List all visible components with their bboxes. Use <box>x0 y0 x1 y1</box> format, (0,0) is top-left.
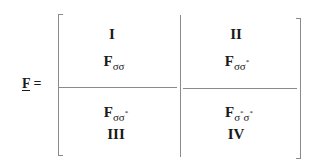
vertical-divider <box>180 15 181 157</box>
block-matrix-element: Fσ*σ* <box>213 104 265 123</box>
block-matrix-element: Fσσ* <box>215 53 259 72</box>
block-roman-label: IV <box>220 126 252 143</box>
equals-sign: = <box>34 76 42 91</box>
block-matrix-element: Fσσ* <box>94 104 138 123</box>
block-roman-label: III <box>98 126 134 143</box>
block-matrix-element: Fσσ <box>94 53 134 72</box>
block-roman-label: I <box>100 26 124 43</box>
block-roman-label: II <box>222 26 250 43</box>
matrix-label: F = <box>22 76 42 92</box>
matrix-symbol: F <box>22 76 30 91</box>
